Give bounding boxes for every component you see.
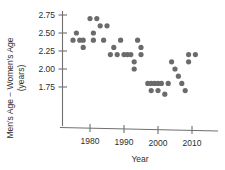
x-tick-label: 2010 bbox=[183, 138, 202, 148]
data-point bbox=[183, 88, 188, 93]
data-point bbox=[98, 23, 103, 28]
y-tick-label: 2.00 bbox=[38, 64, 55, 74]
x-axis-line bbox=[60, 128, 218, 132]
data-point bbox=[155, 88, 160, 93]
data-point bbox=[169, 59, 174, 64]
x-tick-label: 1980 bbox=[81, 136, 100, 146]
data-point bbox=[149, 88, 154, 93]
data-point bbox=[176, 74, 181, 79]
data-point bbox=[70, 38, 75, 43]
data-point bbox=[186, 59, 191, 64]
data-point bbox=[162, 92, 167, 97]
data-point bbox=[91, 38, 96, 43]
data-point bbox=[108, 52, 113, 57]
data-point bbox=[81, 38, 86, 43]
data-point bbox=[111, 45, 116, 50]
data-point bbox=[74, 30, 79, 35]
data-point bbox=[94, 16, 99, 21]
data-point bbox=[87, 16, 92, 21]
y-tick-labels: 2.75 2.50 2.25 2.00 1.75 bbox=[38, 10, 55, 92]
data-point bbox=[179, 81, 184, 86]
data-point bbox=[138, 45, 143, 50]
y-tick-label: 1.75 bbox=[38, 82, 55, 92]
x-tick-label: 2000 bbox=[149, 138, 168, 148]
data-point bbox=[186, 52, 191, 57]
data-point bbox=[128, 52, 133, 57]
data-point bbox=[118, 38, 123, 43]
data-point bbox=[172, 66, 177, 71]
x-tick-labels: 1980 1990 2000 2010 bbox=[81, 136, 202, 148]
data-point-layer bbox=[70, 16, 198, 97]
data-point bbox=[132, 59, 137, 64]
y-tick-label: 2.25 bbox=[38, 46, 55, 56]
x-axis-label: Year bbox=[131, 154, 148, 164]
data-point bbox=[101, 38, 106, 43]
data-point bbox=[138, 52, 143, 57]
data-point bbox=[193, 52, 198, 57]
data-point bbox=[115, 52, 120, 57]
scatter-plot-figure: Men's Age − Women's Age (years) 2.75 2.5… bbox=[0, 0, 225, 170]
data-point bbox=[81, 45, 86, 50]
data-point bbox=[135, 38, 140, 43]
data-point bbox=[132, 66, 137, 71]
plot-canvas: Men's Age − Women's Age (years) 2.75 2.5… bbox=[0, 0, 225, 170]
data-point bbox=[104, 23, 109, 28]
y-axis-label-line2: (years) bbox=[16, 65, 26, 92]
data-point bbox=[166, 81, 171, 86]
data-point bbox=[91, 30, 96, 35]
x-tick-label: 1990 bbox=[115, 137, 134, 147]
y-axis-label-line1: Men's Age − Women's Age bbox=[5, 37, 15, 138]
data-point bbox=[159, 81, 164, 86]
y-tick-label: 2.50 bbox=[38, 28, 55, 38]
y-tick-label: 2.75 bbox=[38, 10, 55, 20]
